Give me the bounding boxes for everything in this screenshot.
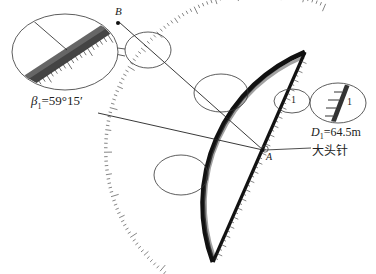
sight-line-b-a (119, 22, 263, 150)
pin-label: 大头针 (312, 141, 348, 158)
protractor (104, 0, 326, 274)
distance-label: D1=64.5m (311, 125, 361, 141)
point-b-label: B (115, 5, 122, 17)
distance-magnifier (310, 82, 366, 124)
protractor-hole-bottom (154, 155, 208, 195)
pin-pointer-line (265, 148, 311, 150)
beta-label: β1=59°15′ (31, 93, 83, 111)
protractor-hole-top (194, 74, 248, 112)
point-a-label: A (266, 151, 272, 162)
point-b-dot (116, 21, 120, 25)
ruler-mark-1: 1 (291, 94, 296, 105)
angle-source-circle (125, 32, 171, 68)
magnified-mark-1: 1 (347, 96, 352, 107)
cut-off-caption-line (0, 0, 376, 3)
protractor-diagram: B A β1=59°15′ D1=64.5m 大头针 1 1 (0, 0, 376, 274)
angle-magnifier (12, 14, 118, 96)
